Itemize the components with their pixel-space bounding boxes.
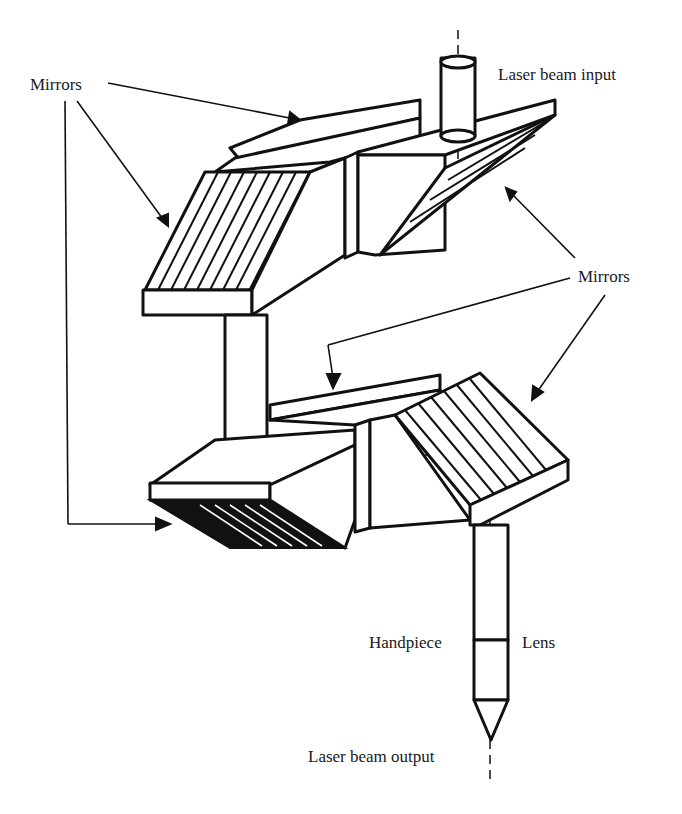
upper-joint-block bbox=[143, 100, 555, 315]
label-mirrors-right: Mirrors bbox=[578, 268, 630, 285]
label-mirrors-top-left: Mirrors bbox=[30, 76, 82, 93]
connecting-tube bbox=[225, 315, 267, 456]
lower-joint-block bbox=[150, 373, 568, 548]
label-laser-beam-input: Laser beam input bbox=[498, 66, 616, 83]
label-laser-beam-output: Laser beam output bbox=[308, 748, 435, 765]
label-handpiece: Handpiece bbox=[369, 634, 442, 651]
label-lens: Lens bbox=[522, 634, 555, 651]
input-tube bbox=[441, 56, 475, 142]
handpiece bbox=[474, 525, 508, 740]
articulated-arm-diagram bbox=[0, 0, 682, 814]
